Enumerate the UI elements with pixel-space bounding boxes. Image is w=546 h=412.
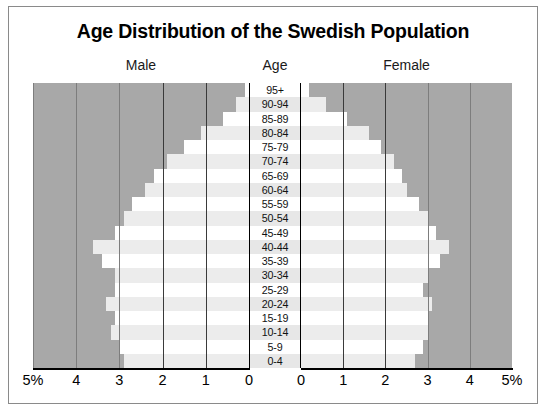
bar-female-30-34: [301, 268, 428, 282]
bar-male-25-29: [115, 283, 249, 297]
bar-female-0-4: [301, 354, 415, 368]
gridline-female-1: [343, 83, 344, 368]
bar-male-10-14: [111, 325, 249, 339]
bar-female-95+: [301, 83, 309, 97]
age-band-label: 75-79: [250, 140, 300, 154]
bar-female-35-39: [301, 254, 440, 268]
gridline-male-4: [76, 83, 77, 368]
x-axis-female: [301, 368, 513, 370]
column-header-age: Age: [249, 57, 301, 73]
column-header-male: Male: [33, 57, 249, 73]
bar-male-30-34: [115, 268, 249, 282]
population-pyramid-figure: Age Distribution of the Swedish Populati…: [0, 0, 546, 412]
age-band-label: 80-84: [250, 126, 300, 140]
x-tick-male-5%: 5%: [23, 372, 44, 388]
bar-female-15-19: [301, 311, 428, 325]
bar-female-75-79: [301, 140, 381, 154]
gridline-male-5: [33, 83, 34, 368]
page-title: Age Distribution of the Swedish Populati…: [0, 20, 546, 43]
bar-male-90-94: [236, 97, 249, 111]
age-band-label: 10-14: [250, 325, 300, 339]
bar-female-70-74: [301, 154, 394, 168]
bar-female-10-14: [301, 325, 428, 339]
bar-male-40-44: [93, 240, 249, 254]
bar-male-5-9: [119, 340, 249, 354]
bar-male-70-74: [167, 154, 249, 168]
x-tick-female-4: 4: [466, 372, 474, 388]
plot-area: 95+90-9485-8980-8475-7970-7465-6960-6455…: [33, 83, 512, 368]
bar-female-80-84: [301, 126, 369, 140]
male-panel: [33, 83, 249, 368]
bar-female-20-24: [301, 297, 432, 311]
column-header-female: Female: [301, 57, 512, 73]
age-band-label: 50-54: [250, 211, 300, 225]
age-band-label: 20-24: [250, 297, 300, 311]
age-band-label: 55-59: [250, 197, 300, 211]
bar-female-90-94: [301, 97, 326, 111]
age-band-label: 85-89: [250, 112, 300, 126]
bar-male-85-89: [223, 112, 249, 126]
bar-female-5-9: [301, 340, 423, 354]
gridline-male-1: [206, 83, 207, 368]
gridline-female-3: [428, 83, 429, 368]
x-tick-female-2: 2: [381, 372, 389, 388]
age-band-label: 5-9: [250, 340, 300, 354]
bar-male-60-64: [145, 183, 249, 197]
age-label-column: 95+90-9485-8980-8475-7970-7465-6960-6455…: [249, 83, 301, 368]
bar-male-65-69: [154, 169, 249, 183]
bar-female-60-64: [301, 183, 407, 197]
gridline-female-4: [470, 83, 471, 368]
bar-female-85-89: [301, 112, 347, 126]
bar-female-65-69: [301, 169, 402, 183]
age-band-label: 40-44: [250, 240, 300, 254]
age-band-label: 25-29: [250, 283, 300, 297]
age-band-label: 60-64: [250, 183, 300, 197]
gridline-female-2: [385, 83, 386, 368]
x-tick-male-4: 4: [72, 372, 80, 388]
gridline-male-3: [119, 83, 120, 368]
x-axis-male: [33, 368, 250, 370]
age-band-label: 15-19: [250, 311, 300, 325]
bar-male-50-54: [124, 211, 249, 225]
bar-female-45-49: [301, 226, 436, 240]
age-band-label: 90-94: [250, 97, 300, 111]
bar-male-55-59: [132, 197, 249, 211]
x-tick-male-1: 1: [202, 372, 210, 388]
age-band-label: 95+: [250, 83, 300, 97]
age-band-label: 45-49: [250, 226, 300, 240]
x-tick-female-3: 3: [424, 372, 432, 388]
bar-male-15-19: [115, 311, 249, 325]
age-band-label: 35-39: [250, 254, 300, 268]
bar-male-75-79: [184, 140, 249, 154]
age-band-label: 0-4: [250, 354, 300, 368]
age-band-label: 30-34: [250, 268, 300, 282]
bar-male-0-4: [124, 354, 249, 368]
age-band-label: 70-74: [250, 154, 300, 168]
bar-female-50-54: [301, 211, 428, 225]
bar-female-55-59: [301, 197, 419, 211]
bar-male-45-49: [115, 226, 249, 240]
gridline-male-2: [163, 83, 164, 368]
x-tick-male-2: 2: [159, 372, 167, 388]
bar-female-25-29: [301, 283, 423, 297]
bar-male-20-24: [106, 297, 249, 311]
bar-male-35-39: [102, 254, 249, 268]
x-tick-female-1: 1: [339, 372, 347, 388]
bar-male-80-84: [201, 126, 249, 140]
x-tick-female-5%: 5%: [502, 372, 523, 388]
x-tick-female-0: 0: [297, 372, 305, 388]
female-panel: [301, 83, 512, 368]
age-band-label: 65-69: [250, 169, 300, 183]
bar-female-40-44: [301, 240, 449, 254]
x-tick-male-0: 0: [245, 372, 253, 388]
x-tick-male-3: 3: [115, 372, 123, 388]
